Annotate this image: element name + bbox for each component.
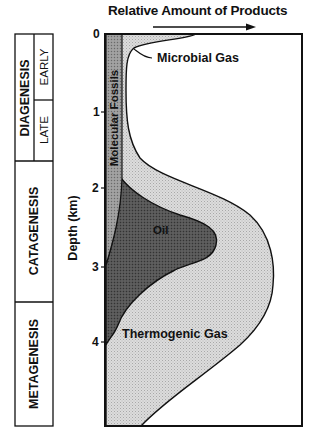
molecular-fossils-label: Molecular Fossils — [108, 70, 120, 167]
tick-0: 0 — [93, 27, 100, 41]
stage-metagenesis: METAGENESIS — [27, 319, 41, 409]
stage-diagenesis: DIAGENESIS — [18, 59, 32, 136]
tick-4: 4 — [92, 335, 99, 349]
tick-2: 2 — [92, 181, 99, 195]
substage-early: EARLY — [38, 49, 50, 86]
microbial-gas-label: Microbial Gas — [157, 51, 239, 65]
tick-1: 1 — [93, 105, 100, 119]
oil-label: Oil — [153, 224, 168, 236]
y-axis-label: Depth (km) — [66, 195, 80, 260]
thermogenic-gas-label: Thermogenic Gas — [122, 327, 228, 341]
tick-3: 3 — [92, 260, 99, 274]
microbial-gas-leader-line — [134, 49, 152, 58]
stage-catagenesis: CATAGENESIS — [27, 187, 41, 275]
substage-late: LATE — [38, 116, 50, 144]
direction-arrow-icon — [153, 24, 256, 31]
x-axis-title: Relative Amount of Products — [108, 3, 287, 18]
